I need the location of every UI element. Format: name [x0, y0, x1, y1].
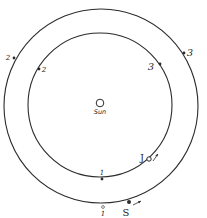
position-dot	[13, 57, 16, 60]
jupiter-icon	[147, 157, 151, 161]
position-label: 2	[41, 66, 47, 74]
orbit-diagram: Sun 1 2 3 1 2 3 J S	[0, 0, 207, 218]
position-dot	[101, 178, 104, 181]
jupiter-label: J	[139, 153, 144, 163]
outer-position-1: 1	[101, 206, 105, 218]
outer-position-2: 2	[5, 54, 16, 62]
inner-position-1: 1	[100, 169, 104, 180]
saturn-label: S	[123, 207, 130, 218]
inner-position-3: 3	[148, 61, 162, 72]
sun: Sun	[94, 99, 106, 116]
saturn-icon	[127, 200, 131, 204]
sun-icon	[96, 99, 104, 107]
position-dot	[38, 68, 41, 71]
planet-saturn: S	[123, 200, 141, 218]
sun-label: Sun	[94, 108, 106, 116]
position-label: 1	[101, 210, 105, 218]
planet-jupiter: J	[139, 153, 158, 163]
position-dot	[102, 206, 105, 209]
position-label: 3	[148, 61, 154, 72]
position-label: 3	[187, 47, 193, 58]
position-dot	[183, 52, 186, 55]
position-label: 2	[5, 54, 11, 62]
position-dot	[159, 63, 162, 66]
position-label: 1	[100, 169, 104, 177]
